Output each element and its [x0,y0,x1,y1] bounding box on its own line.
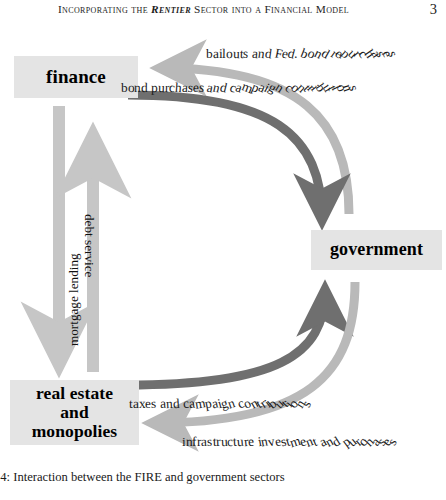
running-head-text-after: Sector into a Financial Model [191,3,349,15]
edge-label-mortgage-lending: mortgage lending [66,253,82,346]
edge-label-char: b [206,46,213,62]
node-real-estate-and-monopolies[interactable]: real estate and monopolies [10,380,139,445]
page-number: 3 [430,1,437,18]
edge-label-char: a [133,396,139,412]
node-government[interactable]: government [311,230,442,270]
node-real-estate-label-line-1: real estate [36,384,113,403]
running-head: Incorporating the Rentier Sector into a … [0,0,446,24]
edge-label-char: b [121,80,128,96]
edge-label-debt-service: debt service [81,214,97,277]
node-real-estate-label-line-3: monopolies [32,422,118,441]
edge-label-bailouts: bailouts and Fed. bond repurchases [206,46,395,62]
running-head-emphasis: Rentier [151,3,191,15]
edge-label-char: d [141,80,148,96]
node-finance-label: finance [46,67,106,88]
arrow-taxes [126,290,325,385]
node-government-label: government [330,240,423,259]
figure-caption-text: , 4: Interaction between the FIRE and go… [0,470,285,485]
arrow-bond-purchases [128,95,322,220]
edge-label-taxes: taxes and campaign contributions [129,396,309,412]
running-head-text-before: Incorporating the [58,3,151,15]
node-finance[interactable]: finance [14,56,138,98]
running-head-title: Incorporating the Rentier Sector into a … [58,3,349,15]
node-real-estate-label-line-2: and [60,403,89,422]
edge-label-infrastructure: infrastructure investment and purchases [182,434,395,450]
edge-label-char: u [233,46,240,62]
edge-label-char: a [213,46,219,62]
figure-diagram: finance government real estate and monop… [0,24,446,464]
edge-label-bond-purchases: bond purchases and campaign contribution… [121,80,356,96]
